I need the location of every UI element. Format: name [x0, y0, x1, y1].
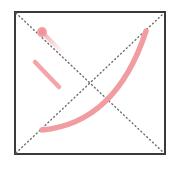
- sketch-canvas: [0, 0, 177, 169]
- sketch-drawing-surface[interactable]: [0, 0, 177, 169]
- pink-dot-blob-core: [39, 29, 45, 35]
